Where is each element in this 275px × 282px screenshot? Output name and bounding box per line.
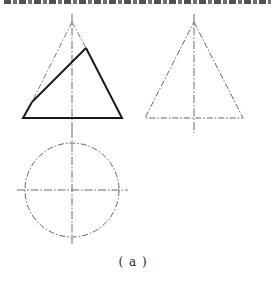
side-view	[145, 14, 243, 133]
front-view-removed-left-edge	[32, 22, 72, 102]
front-view	[23, 14, 122, 130]
top-view	[17, 130, 128, 244]
front-view-removed-right-edge	[72, 22, 86, 48]
front-view-cut-line	[32, 48, 86, 102]
figure-caption: ( a )	[113, 255, 153, 269]
engineering-drawing	[0, 0, 275, 282]
front-view-truncated-outline	[23, 48, 122, 118]
